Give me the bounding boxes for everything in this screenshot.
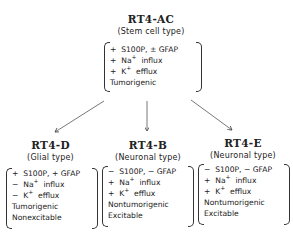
property-line: Tumorigenic [12,201,92,212]
root-properties: + S100P, ± GFAP + Na+ influx + K+ efflux… [104,42,202,92]
node-rt4-e: RT4-E (Neuronal type) [193,137,293,160]
node-subtitle: (Neuronal type) [98,153,198,162]
node-title: RT4-D [3,139,98,151]
bracket-right [196,42,202,92]
rt4-d-properties: + S100P, + GFAP − Na+ influx − K+ efflux… [6,168,98,229]
node-title: RT4-AC [96,13,206,25]
property-line: + Na+ influx [110,55,196,66]
bracket-right [284,164,290,225]
property-line: Nontumorigenic [108,199,188,210]
property-line: − K+ efflux [12,190,92,201]
property-line: + Na+ influx [108,177,188,188]
node-subtitle: (Glial type) [3,153,98,162]
property-line: + S100P, ± GFAP [110,44,196,55]
property-line: Excitable [204,208,284,219]
bracket-right [188,166,194,227]
arrow-to-rt4-d [55,101,104,132]
node-subtitle: (Stem cell type) [96,27,206,36]
property-line: Nontumorigenic [204,197,284,208]
property-line: Excitable [108,210,188,221]
property-line: + K+ efflux [204,186,284,197]
node-title: RT4-E [193,137,293,149]
property-line: + K+ efflux [110,66,196,77]
bracket-left [104,42,110,92]
property-line: + S100P, + GFAP [12,168,92,179]
property-line: Tumorigenic [110,77,196,88]
node-subtitle: (Neuronal type) [193,151,293,160]
property-line: + Na+ influx [204,175,284,186]
bracket-left [198,164,204,225]
bracket-right [92,168,98,229]
rt4-e-properties: − S100P, − GFAP + Na+ influx + K+ efflux… [198,164,290,225]
property-line: − Na+ influx [12,179,92,190]
node-rt4-d: RT4-D (Glial type) [3,139,98,162]
rt4-b-properties: − S100P, − GFAP + Na+ influx + K+ efflux… [102,166,194,227]
node-rt4-b: RT4-B (Neuronal type) [98,139,198,162]
bracket-left [6,168,12,229]
property-line: Nonexcitable [12,212,92,223]
arrow-to-rt4-e [191,100,232,130]
node-rt4-ac: RT4-AC (Stem cell type) [96,13,206,36]
property-line: + K+ efflux [108,188,188,199]
node-title: RT4-B [98,139,198,151]
property-line: − S100P, − GFAP [108,166,188,177]
bracket-left [102,166,108,227]
property-line: − S100P, − GFAP [204,164,284,175]
